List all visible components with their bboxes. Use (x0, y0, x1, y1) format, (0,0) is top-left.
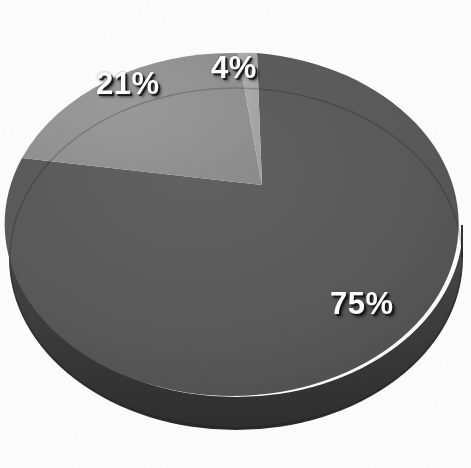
pie-label-21: 21% (96, 68, 160, 99)
pie-chart-figure: 21% 4% 75% (0, 0, 471, 468)
pie-label-4: 4% (211, 52, 257, 83)
pie-label-75: 75% (330, 288, 394, 319)
chart-title (0, 0, 471, 6)
